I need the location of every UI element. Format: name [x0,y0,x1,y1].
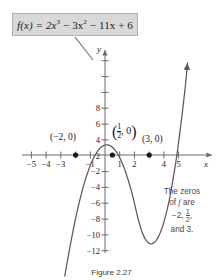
label-zero-minus-two: (−2, 0) [50,132,76,143]
y-tick-labels: 8 6 4 2 −2 −4 −6 −8 −10 −12 [87,103,101,256]
svg-text:−2: −2 [91,166,100,176]
svg-text:−12: −12 [87,246,100,256]
zeros-note: The zeros of f are −2, 12, and 3. [150,186,214,235]
svg-text:4: 4 [162,159,167,169]
label-zero-three: (3, 0) [142,134,163,145]
zero-point-three [147,152,152,157]
svg-text:−4: −4 [91,182,101,192]
svg-text:−3: −3 [56,159,65,169]
coordinate-plot: −5 −4 −3 −1 1 2 4 5 x [0,0,223,280]
x-axis: −5 −4 −3 −1 1 2 4 5 x [22,152,212,170]
svg-text:6: 6 [96,119,100,129]
svg-text:8: 8 [96,103,100,113]
fraction-one-half-note: 12 [186,208,190,224]
zeros-note-line1: The zeros [150,186,214,197]
svg-text:2: 2 [132,159,136,169]
label-zero-one-half: (12, 0) [112,123,137,140]
zeros-note-line3: −2, 12, [150,208,214,224]
formula-text: f(x) = 2x3 − 3x2 − 11x + 6 [17,18,133,31]
svg-text:5: 5 [176,159,180,169]
figure-caption: Figure 2.27 [0,268,223,277]
svg-text:−5: −5 [27,159,36,169]
formula-leader-line [75,37,93,60]
function-curve [66,63,187,267]
y-axis-label: y [96,44,101,54]
x-axis-label: x [203,159,208,169]
svg-text:−4: −4 [42,159,52,169]
figure-container: −5 −4 −3 −1 1 2 4 5 x [0,0,223,280]
svg-text:4: 4 [96,135,101,145]
zero-point-one-half [110,152,115,157]
paren-close: ) [131,123,136,140]
label-zero-rest: , 0 [121,125,131,136]
y-axis: 8 6 4 2 −2 −4 −6 −8 −10 −12 2 y [87,44,109,256]
zeros-note-line4: and 3. [150,224,214,235]
x-tick-labels: −5 −4 −3 −1 1 2 4 5 [27,159,181,169]
zero-point-minus2 [73,152,78,157]
svg-text:−8: −8 [91,214,100,224]
zeros-note-line2: of f are [150,197,214,208]
svg-text:−6: −6 [91,198,100,208]
svg-text:−10: −10 [87,230,100,240]
formula-callout-box: f(x) = 2x3 − 3x2 − 11x + 6 [12,13,138,36]
